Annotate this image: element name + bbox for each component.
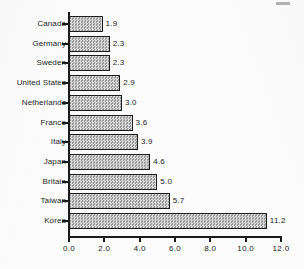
x-axis-tick <box>103 236 105 242</box>
chart-page: CanadaGermanySwedenUnited StatesNetherla… <box>0 0 304 269</box>
category-label: Italy <box>51 137 66 147</box>
bar-value-label: 3.0 <box>125 98 137 108</box>
x-axis-tick-label: 8.0 <box>204 244 216 254</box>
x-axis-tick-label: 6.0 <box>169 244 181 254</box>
bar-value-label: 4.6 <box>153 157 165 167</box>
bar-value-label: 5.7 <box>173 196 185 206</box>
bar <box>69 95 122 111</box>
category-label: Taiwan <box>40 196 66 206</box>
category-label: Britain <box>43 177 66 187</box>
x-axis-tick-label: 0.0 <box>63 244 75 254</box>
bar <box>69 174 157 190</box>
x-axis-tick <box>68 236 70 242</box>
x-axis-tick <box>174 236 176 242</box>
bar <box>69 115 133 131</box>
bar-value-label: 5.0 <box>160 177 172 187</box>
category-label: Canada <box>37 19 66 29</box>
x-axis-tick-label: 2.0 <box>98 244 110 254</box>
bar <box>69 55 110 71</box>
bar <box>69 213 267 229</box>
category-label: Japan <box>44 157 66 167</box>
bar <box>69 193 170 209</box>
bar-value-label: 1.9 <box>106 19 118 29</box>
category-label: Netherlands <box>22 98 66 108</box>
bar <box>69 16 103 32</box>
bar-value-label: 3.6 <box>136 118 148 128</box>
category-label: Sweden <box>36 58 66 68</box>
bar-value-label: 2.9 <box>123 78 135 88</box>
bar-value-label: 2.3 <box>113 58 125 68</box>
bar <box>69 36 110 52</box>
x-axis-tick-label: 4.0 <box>134 244 146 254</box>
x-axis-tick <box>280 236 282 242</box>
category-label: France <box>41 118 67 128</box>
category-label: Germany <box>32 39 66 49</box>
bar <box>69 154 150 170</box>
bar-value-label: 11.2 <box>270 216 286 226</box>
bar <box>69 134 138 150</box>
bar-value-label: 3.9 <box>141 137 153 147</box>
x-axis-tick-label: 10.0 <box>237 244 254 254</box>
x-axis-tick <box>209 236 211 242</box>
bar <box>69 75 120 91</box>
category-label: Korea <box>44 216 66 226</box>
x-axis-tick-label: 12.0 <box>273 244 290 254</box>
x-axis-tick <box>245 236 247 242</box>
x-axis-tick <box>139 236 141 242</box>
category-label: United States <box>17 78 66 88</box>
bar-chart-plot: CanadaGermanySwedenUnited StatesNetherla… <box>0 0 304 269</box>
bar-value-label: 2.3 <box>113 39 125 49</box>
